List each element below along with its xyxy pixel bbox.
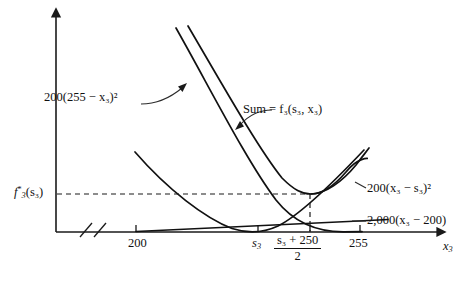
label-left-curve-text: 200(255 − x₃)² bbox=[44, 90, 117, 104]
leader-right-curve bbox=[355, 182, 366, 188]
midpoint-fraction-denominator: 2 bbox=[274, 249, 321, 263]
tick-label-255-text: 255 bbox=[349, 236, 368, 250]
label-left-curve: 200(255 − x₃)² bbox=[44, 91, 117, 104]
label-sum-curve-text: Sum = f₃(s₃, x₃) bbox=[243, 102, 322, 116]
tick-label-200-text: 200 bbox=[128, 236, 147, 250]
figure-container: 200(255 − x₃)² Sum = f₃(s₃, x₃) 200(x₃ −… bbox=[0, 0, 476, 283]
tick-label-200: 200 bbox=[128, 237, 147, 250]
tick-label-s3: s3 bbox=[252, 237, 261, 250]
x-axis-label: x3 bbox=[443, 240, 453, 253]
tick-label-255: 255 bbox=[349, 237, 368, 250]
pointer-left-curve bbox=[141, 83, 187, 104]
label-f3-star-argument: (s₃) bbox=[26, 185, 44, 199]
label-linear-curve: 2,000(x₃ − 200) bbox=[367, 214, 446, 227]
midpoint-fraction: s₃ + 250 2 bbox=[274, 234, 321, 262]
label-f3-star-s3: f*3(s₃) bbox=[14, 186, 43, 199]
x-axis-break-icon bbox=[80, 223, 106, 237]
label-right-curve: 200(x₃ − s₃)² bbox=[367, 182, 431, 195]
curve-linear-2000 bbox=[136, 220, 388, 232]
tick-label-s3-subscript: 3 bbox=[257, 242, 261, 251]
tick-label-midpoint-fraction: s₃ + 250 2 bbox=[274, 234, 321, 262]
label-right-curve-text: 200(x₃ − s₃)² bbox=[367, 181, 431, 195]
label-sum-curve: Sum = f₃(s₃, x₃) bbox=[243, 103, 322, 116]
curve-200-x3-minus-s3-squared bbox=[135, 150, 364, 232]
label-linear-curve-text: 2,000(x₃ − 200) bbox=[367, 213, 446, 227]
x-axis-label-subscript: 3 bbox=[449, 245, 453, 254]
figure-canvas bbox=[0, 0, 476, 283]
curve-200-255-minus-x3-squared bbox=[176, 28, 362, 232]
midpoint-fraction-numerator: s₃ + 250 bbox=[274, 234, 321, 249]
